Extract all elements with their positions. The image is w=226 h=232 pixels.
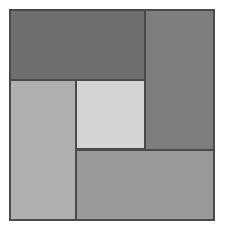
tiling-figure	[0, 0, 226, 232]
region-bottom-rectangle	[76, 150, 214, 220]
region-top-left-rectangle	[10, 10, 145, 80]
region-center-square	[76, 80, 145, 149]
region-right-rectangle	[145, 10, 214, 150]
region-left-rectangle	[10, 80, 76, 220]
tiling-canvas	[0, 0, 226, 232]
